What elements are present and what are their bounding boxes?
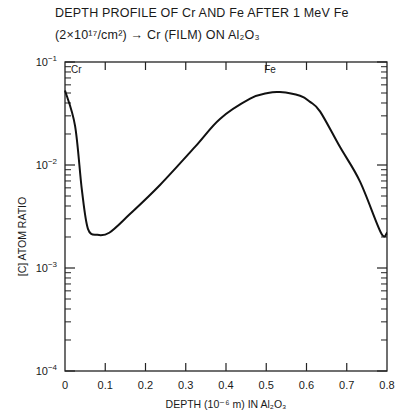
y-axis-label: [C] ATOM RATIO	[16, 197, 28, 276]
x-tick-label: 0.2	[138, 379, 153, 391]
annotation-fe: Fe	[264, 64, 276, 75]
y-tick-label: 10−4	[36, 363, 58, 377]
x-tick-label: 0.3	[178, 379, 193, 391]
x-tick-label: 0.7	[339, 379, 354, 391]
y-tick-label: 10−1	[36, 54, 58, 68]
x-tick-label: 0.6	[299, 379, 314, 391]
chart-plot: 00.10.20.30.40.50.60.70.810−410−310−210−…	[0, 0, 409, 416]
y-tick-label: 10−3	[36, 260, 58, 274]
y-tick-label: 10−2	[36, 157, 58, 171]
x-axis-label: DEPTH (10⁻⁶ m) IN Al₂O₃	[166, 398, 287, 410]
x-tick-label: 0.8	[379, 379, 394, 391]
data-curve	[65, 90, 387, 236]
annotation-cr: Cr	[71, 64, 82, 75]
x-tick-label: 0	[62, 379, 68, 391]
plot-frame	[65, 62, 387, 371]
x-tick-label: 0.4	[218, 379, 233, 391]
x-tick-label: 0.1	[98, 379, 113, 391]
x-tick-label: 0.5	[259, 379, 274, 391]
